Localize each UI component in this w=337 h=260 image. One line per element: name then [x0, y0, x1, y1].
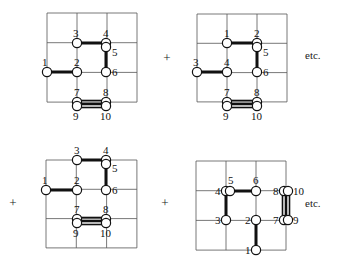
node-label-9: 9: [293, 214, 299, 226]
node-circle-3: [192, 67, 201, 76]
node-label-4: 4: [103, 144, 109, 156]
etc-label: etc.: [305, 49, 321, 61]
node-label-2: 2: [254, 27, 260, 39]
node-label-8: 8: [103, 203, 109, 215]
node-circle-2: [72, 67, 81, 76]
node-label-1: 1: [42, 174, 48, 186]
node-label-1: 1: [224, 27, 230, 39]
node-label-2: 2: [245, 214, 251, 226]
node-circle-1: [42, 67, 51, 76]
grid-lines: [196, 161, 286, 250]
node-circle-5: [252, 42, 261, 51]
node-label-7: 7: [74, 86, 80, 98]
node-circle-5: [101, 159, 110, 168]
node-circle-1: [41, 185, 50, 194]
panel-top-left: 12345678910: [42, 13, 137, 122]
node-label-6: 6: [112, 184, 118, 196]
node-label-5: 5: [112, 162, 118, 174]
node-label-10: 10: [100, 227, 112, 239]
node-label-8: 8: [103, 86, 109, 98]
node-label-10: 10: [251, 110, 263, 122]
diagram-canvas: 1234567891034125678910123456789104568103…: [0, 0, 337, 260]
node-label-1: 1: [245, 244, 251, 256]
panel-bottom-right: 45681032791: [196, 161, 305, 256]
node-circle-10: [283, 186, 292, 195]
panel-bottom-left: 12345678910: [41, 144, 136, 248]
node-circle-2: [72, 185, 81, 194]
node-label-9: 9: [223, 110, 229, 122]
node-label-1: 1: [42, 56, 48, 68]
node-label-10: 10: [100, 110, 112, 122]
nodes: 34125678910: [192, 27, 269, 122]
node-circle-6: [252, 67, 261, 76]
node-label-5: 5: [112, 46, 118, 58]
node-label-2: 2: [74, 174, 80, 186]
node-circle-6: [101, 185, 110, 194]
node-label-6: 6: [263, 66, 269, 78]
plus-sign: +: [161, 195, 168, 210]
nodes: 12345678910: [42, 27, 118, 122]
node-circle-4: [222, 67, 231, 76]
node-circle-6: [251, 186, 260, 195]
plus-sign: +: [163, 50, 170, 65]
node-label-3: 3: [73, 27, 79, 39]
panel-top-right: 34125678910: [192, 14, 287, 122]
node-label-3: 3: [74, 144, 80, 156]
node-label-8: 8: [273, 185, 279, 197]
node-circle-3: [72, 38, 81, 47]
node-circle-5: [101, 42, 110, 51]
node-circle-2: [251, 215, 260, 224]
node-label-3: 3: [215, 214, 221, 226]
nodes: 45681032791: [215, 174, 305, 256]
node-label-7: 7: [224, 86, 230, 98]
grid-lines: [47, 13, 137, 102]
node-label-7: 7: [74, 203, 80, 215]
node-circle-9: [283, 215, 292, 224]
node-label-7: 7: [273, 214, 279, 226]
node-circle-1: [222, 38, 231, 47]
node-circle-3: [221, 215, 230, 224]
node-label-9: 9: [73, 227, 79, 239]
node-label-4: 4: [103, 27, 109, 39]
node-label-4: 4: [224, 56, 230, 68]
node-label-9: 9: [73, 110, 79, 122]
node-label-8: 8: [254, 86, 260, 98]
node-label-5: 5: [228, 174, 234, 186]
node-label-6: 6: [253, 174, 259, 186]
plus-sign: +: [9, 195, 16, 210]
node-label-5: 5: [263, 46, 269, 58]
node-label-2: 2: [74, 56, 80, 68]
node-label-3: 3: [193, 56, 199, 68]
grid-lines: [197, 14, 287, 102]
node-circle-6: [101, 67, 110, 76]
grid-lines: [46, 160, 137, 248]
node-label-4: 4: [215, 185, 221, 197]
node-circle-3: [72, 155, 81, 164]
etc-label: etc.: [305, 197, 321, 209]
node-circle-1: [251, 245, 260, 254]
lattice-diagram: 1234567891034125678910123456789104568103…: [0, 0, 337, 260]
node-circle-5: [225, 186, 234, 195]
node-label-6: 6: [112, 66, 118, 78]
node-label-10: 10: [293, 185, 305, 197]
